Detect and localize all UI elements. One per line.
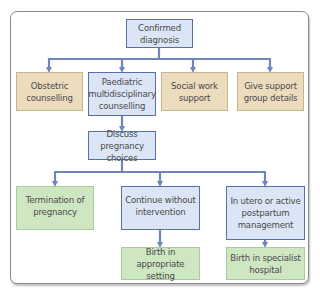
node-label: Confirmed diagnosis [129,22,190,46]
node-continue-without-intervention: Continue without intervention [121,186,200,230]
node-paediatric-counselling: Paediatric multidisciplinary counselling [88,72,156,116]
node-label: Birth in appropriate setting [124,246,197,282]
node-obstetric-counselling: Obstetric counselling [16,72,83,111]
node-support-group-details: Give support group details [237,72,304,111]
node-label: In utero or active postpartum management [229,195,302,231]
node-label: Social work support [164,80,225,104]
node-label: Continue without intervention [124,194,197,218]
node-label: Termination of pregnancy [19,194,91,218]
node-termination-of-pregnancy: Termination of pregnancy [16,186,94,230]
node-label: Birth in specialist hospital [229,252,302,276]
node-label: Paediatric multidisciplinary counselling [88,76,156,112]
node-in-utero-management: In utero or active postpartum management [226,186,305,240]
node-social-work-support: Social work support [161,72,228,111]
node-birth-specialist-hospital: Birth in specialist hospital [226,247,305,280]
node-confirmed-diagnosis: Confirmed diagnosis [126,19,193,48]
node-label: Give support group details [240,80,301,104]
node-discuss-pregnancy-choices: Discuss pregnancy choices [88,131,156,160]
node-label: Discuss pregnancy choices [91,128,153,164]
node-label: Obstetric counselling [19,80,80,104]
node-birth-appropriate-setting: Birth in appropriate setting [121,247,200,280]
